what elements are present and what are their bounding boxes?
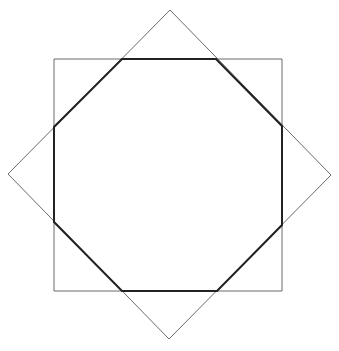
diagram-canvas <box>0 0 339 351</box>
geometry-figure <box>0 0 339 351</box>
octagon-outline <box>54 59 282 291</box>
